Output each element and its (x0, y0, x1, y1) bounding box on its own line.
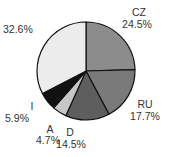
label-other-value: 32.6% (3, 24, 33, 35)
label-cz-value: 24.5% (121, 19, 153, 30)
pie-slices (37, 22, 135, 120)
label-i-name: I (27, 101, 37, 112)
label-d-name: D (64, 127, 76, 138)
label-ru-name: RU (135, 99, 155, 110)
label-i-value: 5.9% (4, 113, 30, 124)
label-ru-value: 17.7% (128, 111, 162, 122)
label-d-value: 14.5% (55, 139, 87, 150)
label-cz-name: CZ (130, 7, 148, 18)
